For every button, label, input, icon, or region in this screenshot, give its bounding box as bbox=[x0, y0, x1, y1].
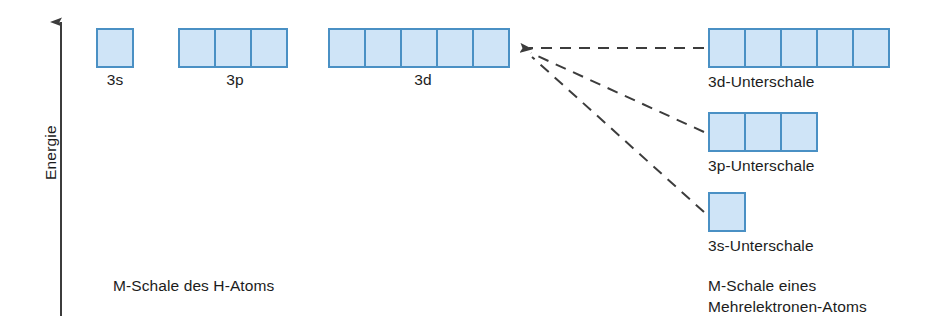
orbital-cell bbox=[744, 112, 782, 152]
subshell-label-3d: 3d-Unterschale bbox=[708, 72, 815, 93]
orbital-cell bbox=[214, 28, 252, 68]
connector-line-3p bbox=[531, 53, 704, 132]
orbital-row-3s bbox=[96, 28, 134, 68]
orbital-label-3d: 3d bbox=[414, 70, 431, 91]
orbital-cell bbox=[816, 28, 854, 68]
orbital-cell bbox=[708, 28, 746, 68]
orbital-cell bbox=[178, 28, 216, 68]
energy-level-diagram: Energie 3s 3p 3d M-Schale des H-Atoms 3d… bbox=[0, 0, 934, 326]
orbital-cell bbox=[364, 28, 402, 68]
orbital-cell bbox=[744, 28, 782, 68]
subshell-label-3s: 3s-Unterschale bbox=[708, 236, 814, 257]
subshell-row-3p bbox=[708, 112, 818, 152]
orbital-cell bbox=[780, 28, 818, 68]
right-group-caption: M-Schale eines Mehrelektronen-Atoms bbox=[708, 275, 867, 317]
orbital-row-3p bbox=[178, 28, 288, 68]
orbital-label-3s: 3s bbox=[107, 70, 124, 91]
orbital-cell bbox=[96, 28, 134, 68]
orbital-cell bbox=[708, 112, 746, 152]
orbital-cell bbox=[436, 28, 474, 68]
left-group-caption: M-Schale des H-Atoms bbox=[113, 275, 274, 296]
energy-axis-label: Energie bbox=[42, 125, 60, 180]
orbital-cell bbox=[328, 28, 366, 68]
orbital-cell bbox=[852, 28, 890, 68]
orbital-cell bbox=[250, 28, 288, 68]
orbital-label-3p: 3p bbox=[226, 70, 243, 91]
subshell-row-3d bbox=[708, 28, 890, 68]
orbital-cell bbox=[780, 112, 818, 152]
connector-line-3s bbox=[532, 57, 704, 212]
orbital-cell bbox=[400, 28, 438, 68]
subshell-row-3s bbox=[708, 192, 746, 232]
subshell-label-3p: 3p-Unterschale bbox=[708, 156, 815, 177]
orbital-cell bbox=[708, 192, 746, 232]
orbital-cell bbox=[472, 28, 510, 68]
orbital-row-3d bbox=[328, 28, 510, 68]
